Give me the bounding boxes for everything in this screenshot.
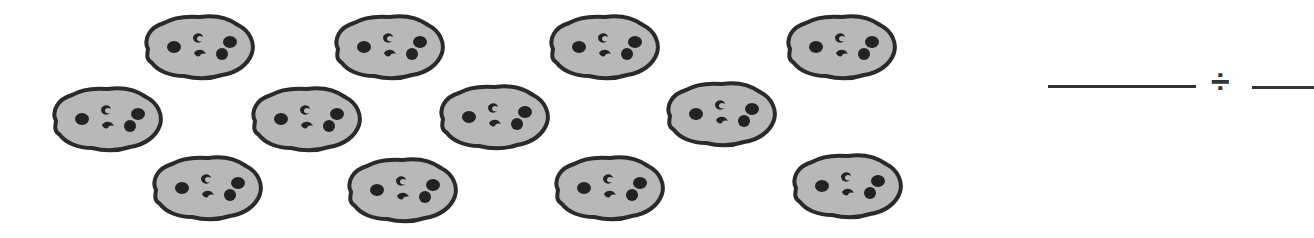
cookie-icon	[662, 80, 779, 148]
cookie-icon	[782, 13, 899, 81]
cookie-icon	[788, 152, 905, 220]
division-sign: ÷	[1211, 64, 1230, 98]
cookie-icon	[330, 13, 447, 81]
cookie-icon	[545, 13, 662, 81]
dividend-blank[interactable]	[1048, 85, 1196, 88]
cookie-icon	[435, 83, 552, 151]
cookie-icon	[140, 13, 257, 81]
cookie-icon	[148, 154, 265, 222]
divisor-blank[interactable]	[1252, 86, 1314, 89]
cookie-icon	[550, 154, 667, 222]
cookie-icon	[247, 85, 364, 153]
cookie-icon	[343, 156, 460, 224]
cookie-icon	[48, 85, 165, 153]
